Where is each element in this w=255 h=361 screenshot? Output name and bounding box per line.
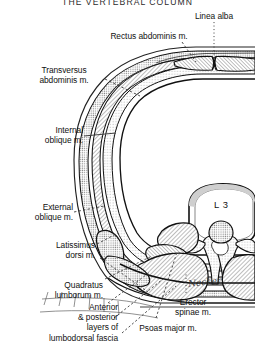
- figure-canvas: THE VERTEBRAL COLUMN: [0, 0, 255, 361]
- label-internal-oblique: Internal oblique m.: [8, 125, 83, 145]
- label-linea-alba: Linea alba: [178, 11, 250, 21]
- label-transversus-abdominis: Transversus abdominis m.: [22, 65, 106, 85]
- vertebra-label: L 3: [214, 199, 228, 210]
- label-lumbodorsal-fascia: Anterior & posterior layers of lumbodors…: [2, 302, 118, 343]
- label-external-oblique: External oblique m.: [0, 202, 73, 222]
- label-rectus-abdominis: Rectus abdominis m.: [100, 31, 198, 41]
- label-psoas-major: Psoas major m.: [122, 323, 214, 333]
- label-erector-spinae: Erector spinae m.: [162, 297, 224, 317]
- label-quadratus-lumborum: Quadratus lumborum m.: [10, 280, 103, 300]
- label-latissimus-dorsi: Latissimus dorsi m.: [14, 240, 95, 260]
